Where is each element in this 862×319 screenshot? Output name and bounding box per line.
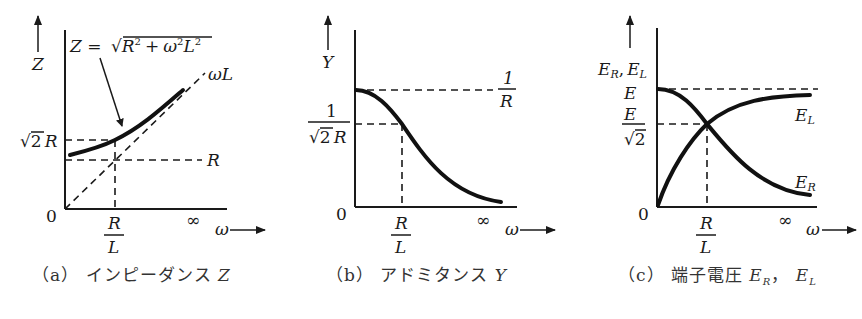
caption-a-text: インピーダンス bbox=[86, 265, 212, 285]
e-over-sqrt2-den: √2 bbox=[624, 129, 646, 149]
caption-a-symbol: Z bbox=[218, 265, 231, 285]
one-over-r-den: R bbox=[499, 91, 513, 111]
el-curve-label: EL bbox=[794, 105, 815, 127]
caption-a-prefix: （a） bbox=[32, 265, 79, 285]
origin-label: 0 bbox=[46, 206, 57, 226]
sqrt2r-label: √2R bbox=[20, 131, 58, 151]
panel-a-impedance: Z Z = √R2+ω2L2 ωL √2R R 0 R L ∞ ω bbox=[20, 16, 265, 257]
y-axis-label: Y bbox=[322, 52, 335, 72]
caption-c: （c） 端子電圧 ER， EL bbox=[618, 261, 817, 287]
one-over-sqrt2r-den: √2R bbox=[309, 127, 347, 147]
impedance-formula: Z = √R2+ω2L2 bbox=[69, 36, 201, 56]
er-curve bbox=[658, 89, 810, 195]
origin-label: 0 bbox=[336, 204, 347, 224]
x-axis-label: ω bbox=[215, 219, 229, 239]
omega-l-label: ωL bbox=[208, 64, 233, 84]
r-label: R bbox=[206, 150, 220, 170]
caption-b-text: アドミタンス bbox=[380, 265, 488, 285]
caption-a: （a） インピーダンス Z bbox=[32, 261, 231, 286]
caption-b-symbol: Y bbox=[495, 265, 507, 285]
infinity-label: ∞ bbox=[186, 210, 200, 230]
caption-b: （b） アドミタンス Y bbox=[326, 261, 507, 286]
panel-b-admittance: Y 1 R 1 √2R 0 R L ∞ ω bbox=[308, 16, 555, 257]
caption-b-prefix: （b） bbox=[326, 265, 374, 285]
pointer-arrow-icon bbox=[100, 58, 122, 126]
one-over-sqrt2r-num: 1 bbox=[326, 101, 337, 121]
er-curve-label: ER bbox=[794, 172, 816, 194]
origin-label: 0 bbox=[638, 204, 649, 224]
e-over-sqrt2-num: E bbox=[623, 104, 637, 124]
infinity-label: ∞ bbox=[476, 210, 490, 230]
omega-l-asymptote bbox=[65, 73, 205, 209]
caption-c-sep: ， bbox=[771, 265, 789, 285]
admittance-curve bbox=[356, 90, 501, 202]
one-over-r-num: 1 bbox=[503, 68, 514, 88]
x-axis-label: ω bbox=[806, 219, 820, 239]
e-label: E bbox=[623, 83, 637, 103]
caption-c-symbol-er: ER bbox=[749, 265, 771, 285]
r-over-l-den: L bbox=[107, 237, 119, 257]
caption-c-symbol-el: EL bbox=[796, 265, 817, 285]
r-over-l-num: R bbox=[107, 213, 121, 233]
y-axis-label: ER,EL bbox=[597, 59, 647, 81]
r-over-l-num: R bbox=[394, 213, 408, 233]
r-over-l-den: L bbox=[699, 237, 711, 257]
panel-c-terminal-voltage: ER,EL E E √2 EL ER 0 R L ∞ ω bbox=[597, 16, 856, 257]
r-over-l-num: R bbox=[699, 213, 713, 233]
caption-c-prefix: （c） bbox=[618, 265, 665, 285]
impedance-curve bbox=[70, 90, 183, 155]
caption-c-text: 端子電圧 bbox=[671, 265, 743, 285]
x-axis-label: ω bbox=[505, 219, 519, 239]
y-axis-label: Z bbox=[31, 54, 45, 74]
infinity-label: ∞ bbox=[778, 210, 792, 230]
r-over-l-den: L bbox=[394, 237, 406, 257]
